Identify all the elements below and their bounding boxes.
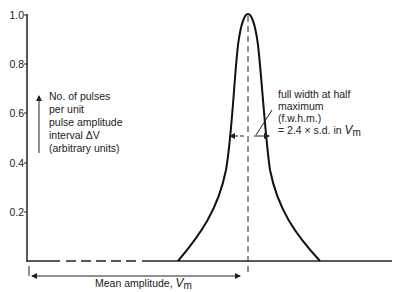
pulse-height-diagram: 1.0 0.8 0.6 0.4 0.2 No. of pulses per un…: [0, 0, 395, 292]
y-label-line: interval ΔV: [49, 129, 100, 141]
y-tick-label: 0.2: [9, 206, 24, 218]
fwhm-label-line: (f.w.h.m.): [278, 112, 321, 124]
y-label-line: No. of pulses: [49, 90, 110, 102]
x-axis-label: Mean amplitude, Vm: [95, 276, 192, 291]
y-tick-label: 1.0: [9, 9, 24, 21]
fwhm-label-line: full width at half: [278, 88, 350, 100]
y-tick-label: 0.4: [9, 157, 24, 169]
y-label-line: per unit: [49, 103, 84, 115]
y-tick-label: 0.6: [9, 107, 24, 119]
diagram-svg: 1.0 0.8 0.6 0.4 0.2 No. of pulses per un…: [0, 0, 395, 292]
fwhm-label-line: maximum: [278, 100, 324, 112]
pulse-distribution-curve: [178, 14, 320, 261]
y-tick-label: 0.8: [9, 58, 24, 70]
y-label-line: (arbitrary units): [49, 142, 120, 154]
y-label-line: pulse amplitude: [49, 116, 123, 128]
fwhm-equation: = 2.4 × s.d. in Vm: [278, 123, 361, 138]
